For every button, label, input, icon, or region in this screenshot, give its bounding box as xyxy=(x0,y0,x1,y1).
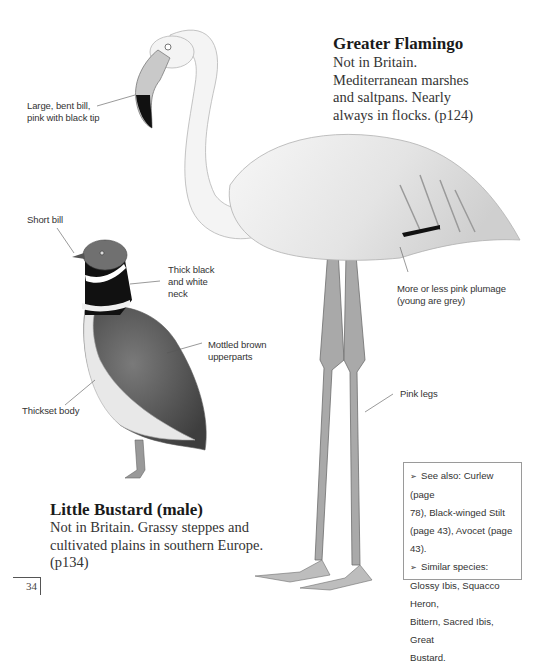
label-bustard-bill: Short bill xyxy=(27,214,63,226)
infobox-line: ➢Similar species: xyxy=(410,558,515,577)
infobox-line: Glossy Ibis, Squacco Heron, xyxy=(410,577,515,613)
label-bustard-neck: Thick black and white neck xyxy=(168,264,214,300)
label-line: (young are grey) xyxy=(397,295,506,307)
see-also-box: ➢See also: Curlew (page 78), Black-winge… xyxy=(403,462,522,580)
flamingo-eye xyxy=(165,44,171,50)
label-flamingo-legs: Pink legs xyxy=(400,388,438,400)
label-bustard-upperparts: Mottled brown upperparts xyxy=(208,339,266,363)
label-line: Large, bent bill, xyxy=(27,100,100,112)
label-line: upperparts xyxy=(208,351,266,363)
label-flamingo-bill: Large, bent bill, pink with black tip xyxy=(27,100,100,124)
flamingo-description-line: always in flocks. (p124) xyxy=(333,107,473,125)
label-line: neck xyxy=(168,288,214,300)
infobox-text: Similar species: xyxy=(421,561,488,572)
flamingo-legs xyxy=(255,250,372,590)
label-line: Mottled brown xyxy=(208,339,266,351)
flamingo-title: Greater Flamingo xyxy=(333,34,463,53)
flamingo-bill xyxy=(136,50,170,128)
flamingo-body xyxy=(229,134,520,260)
flamingo-description-line: and saltpans. Nearly xyxy=(333,89,473,107)
bustard-description-line: cultivated plains in southern Europe. xyxy=(50,537,263,555)
label-line: More or less pink plumage xyxy=(397,283,506,295)
bustard-head xyxy=(83,240,127,270)
bustard-description-line: (p134) xyxy=(50,554,263,572)
page-number: 34 xyxy=(13,577,41,595)
bustard-legs xyxy=(125,440,145,478)
infobox-line: Bittern, Sacred Ibis, Great xyxy=(410,613,515,649)
infobox-line: 78), Black-winged Stilt xyxy=(410,504,515,522)
bustard-description: Not in Britain. Grassy steppes and culti… xyxy=(50,519,263,572)
label-line: pink with black tip xyxy=(27,112,100,124)
bustard-title: Little Bustard (male) xyxy=(50,500,203,519)
flamingo-description-line: Mediterranean marshes xyxy=(333,72,473,90)
label-line: and white xyxy=(168,276,214,288)
arrowhead-bullet-icon: ➢ xyxy=(410,563,417,572)
infobox-line: Bustard. xyxy=(410,649,515,665)
infobox-text: See also: Curlew (page xyxy=(410,470,494,500)
label-flamingo-plumage: More or less pink plumage (young are gre… xyxy=(397,283,506,307)
bustard-description-line: Not in Britain. Grassy steppes and xyxy=(50,519,263,537)
label-line: Thick black xyxy=(168,264,214,276)
infobox-line: (page 43), Avocet (page 43). xyxy=(410,522,515,558)
bustard-bill xyxy=(72,253,85,259)
infobox-line: ➢See also: Curlew (page xyxy=(410,467,515,504)
label-bustard-body: Thickset body xyxy=(22,405,79,417)
flamingo-description: Not in Britain. Mediterranean marshes an… xyxy=(333,54,473,124)
arrowhead-bullet-icon: ➢ xyxy=(410,472,417,481)
flamingo-description-line: Not in Britain. xyxy=(333,54,473,72)
